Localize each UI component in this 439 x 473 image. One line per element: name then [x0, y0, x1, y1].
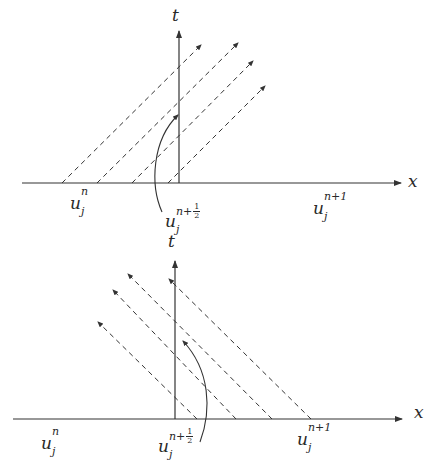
bottom-characteristics — [98, 274, 311, 419]
bottom-t-axis-label: t — [168, 233, 175, 250]
top-label-u-n: u n j — [70, 193, 81, 213]
top-label-u-half: u n+12 j — [165, 211, 176, 231]
top-x-axis-label: x — [408, 173, 418, 190]
characteristic-line — [62, 45, 201, 183]
characteristic-line — [97, 43, 238, 183]
bottom-label-u-n: u n j — [41, 433, 52, 453]
bottom-label-u-n1: u n+1 j — [297, 429, 308, 449]
bottom-label-u-half: u n+12 j — [158, 436, 169, 456]
diagram-canvas — [0, 0, 439, 473]
top-curved-arrow — [155, 115, 178, 212]
top-characteristics — [62, 43, 265, 183]
top-panel — [22, 31, 401, 212]
bottom-x-axis-label: x — [414, 404, 424, 421]
characteristic-line — [128, 274, 272, 419]
characteristic-line — [168, 86, 265, 183]
characteristic-line — [132, 61, 253, 183]
top-label-u-n1: u n+1 j — [313, 198, 324, 218]
characteristic-line — [98, 322, 197, 419]
bottom-panel — [13, 261, 402, 442]
top-t-axis-label: t — [172, 7, 179, 24]
